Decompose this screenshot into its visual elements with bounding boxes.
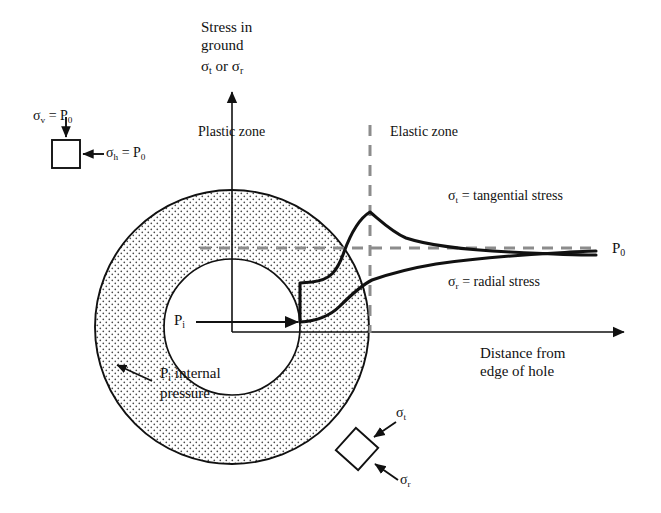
tangential-label-text: = tangential stress: [458, 188, 563, 203]
plastic-zone-stipple-fill: [0, 0, 661, 513]
tangential-sigma-symbol: σ: [448, 188, 456, 203]
far-field-element-square: [52, 140, 80, 168]
y-axis-label: Stress in ground σt or σr: [201, 18, 252, 76]
pi-arrow-subscript: i: [182, 319, 185, 330]
radial-sigma-symbol: σ: [448, 274, 456, 289]
p0-far-field-label: P0: [612, 240, 625, 258]
sigma-h-label: σh = P0: [106, 145, 145, 162]
pi-internal-pressure-caption: Pi internal pressure: [160, 364, 221, 402]
x-axis-label-line1: Distance from: [480, 344, 565, 362]
x-axis-label-line2: edge of hole: [480, 362, 565, 380]
figure-canvas: Stress in ground σt or σr Plastic zone E…: [0, 0, 661, 513]
wall-sigma-t-subscript: t: [404, 412, 407, 422]
hole-annulus-group: [0, 0, 661, 513]
pi-arrow-label: Pi: [174, 312, 185, 330]
y-axis-label-line1: Stress in: [201, 18, 252, 36]
wall-sigma-r-symbol: σ: [400, 472, 408, 487]
sigma-h-symbol: σ: [106, 145, 114, 160]
y-axis-sigma-t-symbol: σ: [201, 58, 209, 74]
wall-sigma-r-label: σr: [400, 472, 411, 489]
wall-sigma-t-label: σt: [396, 405, 406, 422]
wall-sigma-r-subscript: r: [408, 479, 411, 489]
wall-sigma-t-symbol: σ: [396, 405, 404, 420]
x-axis-label: Distance from edge of hole: [480, 344, 565, 381]
elastic-zone-label: Elastic zone: [390, 124, 458, 141]
y-axis-or-text: or: [212, 58, 232, 74]
y-axis-label-line3: σt or σr: [201, 57, 252, 77]
sigma-h-p0-subscript: 0: [141, 152, 146, 162]
pi-caption-line1: Pi internal: [160, 364, 221, 384]
p0-subscript: 0: [620, 247, 625, 258]
sigma-h-equals: = P: [118, 145, 141, 160]
sigma-v-symbol: σ: [33, 108, 41, 123]
sigma-v-label: σv = P0: [33, 108, 72, 125]
diagram-vector-layer: [0, 0, 661, 513]
radial-label-text: = radial stress: [459, 274, 540, 289]
sigma-v-p0-subscript: 0: [68, 115, 73, 125]
y-axis-sigma-r-symbol: σ: [232, 58, 240, 74]
radial-stress-label: σr = radial stress: [448, 274, 540, 291]
y-axis-label-line2: ground: [201, 36, 252, 54]
pi-caption-line1-rest: internal: [171, 365, 221, 381]
tangential-stress-label: σt = tangential stress: [448, 188, 563, 205]
plastic-zone-label: Plastic zone: [198, 124, 265, 141]
y-axis-sigma-r-subscript: r: [240, 64, 243, 75]
pi-caption-line2: pressure: [160, 384, 221, 402]
sigma-v-equals: = P: [45, 108, 68, 123]
